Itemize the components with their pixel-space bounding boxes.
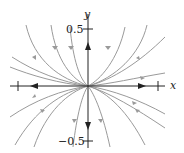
x-axis-label: x [170,79,177,92]
y-axis-label: y [83,8,91,21]
y-tick-label-bottom: −0.5 [58,135,85,148]
y-tick-label-top: 0.5 [66,23,84,36]
phase-portrait: x y 0.5 −0.5 [0,0,184,153]
